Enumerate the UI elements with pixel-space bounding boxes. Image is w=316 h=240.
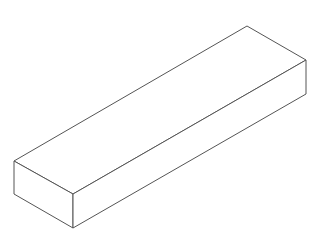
isometric-box-drawing bbox=[0, 0, 316, 240]
